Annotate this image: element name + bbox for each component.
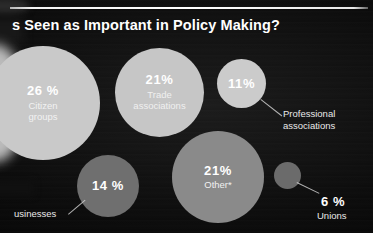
bubble-value-professional-associations: 11%: [228, 77, 255, 91]
page-title: s Seen as Important in Policy Making?: [12, 17, 280, 33]
bubble-value-trade-associations: 21%: [146, 73, 174, 87]
bubble-label-unions: Unions: [317, 210, 347, 222]
bubble-professional-associations[interactable]: 11%: [217, 59, 266, 108]
bubble-citizen-groups[interactable]: 26 % Citizen groups: [0, 46, 100, 160]
bubble-label-trade-associations: Trade associations: [133, 89, 185, 111]
bubble-businesses[interactable]: 14 %: [77, 155, 139, 217]
bubble-value-other: 21%: [204, 164, 232, 178]
leader-line-professional-associations: [260, 99, 282, 116]
bubble-label-businesses: usinesses: [14, 208, 56, 220]
left-edge-artifact-bottom: [0, 180, 34, 196]
bubble-other[interactable]: 21% Other*: [172, 131, 264, 223]
bubble-label-other: Other*: [204, 179, 231, 190]
infographic-slide: s Seen as Important in Policy Making? 26…: [0, 0, 373, 233]
leader-line-businesses: [68, 200, 85, 215]
bubble-label-professional-associations: Professional associations: [283, 108, 335, 132]
bubble-value-unions: 6 %: [321, 194, 345, 209]
bubble-value-citizen-groups: 26 %: [27, 84, 59, 98]
bubble-value-businesses: 14 %: [92, 179, 124, 193]
header-rule: [10, 7, 368, 9]
leader-line-unions: [297, 182, 320, 194]
bubble-label-citizen-groups: Citizen groups: [28, 100, 57, 122]
bubble-trade-associations[interactable]: 21% Trade associations: [115, 48, 204, 137]
bubble-unions[interactable]: [274, 162, 301, 189]
